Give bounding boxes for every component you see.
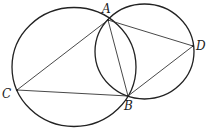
point-B (127, 95, 129, 97)
point-D (192, 45, 194, 47)
geometry-diagram: A B C D (0, 0, 206, 130)
label-B: B (123, 99, 133, 113)
circles-group (12, 4, 194, 127)
segments-group (17, 20, 193, 96)
labels-group: A B C D (2, 2, 206, 113)
segment-CA (17, 20, 108, 90)
label-C: C (2, 87, 11, 101)
point-C (16, 89, 18, 91)
point-A (107, 19, 109, 21)
label-A: A (101, 2, 111, 16)
points-group (16, 19, 194, 97)
segment-CB (17, 90, 128, 96)
segment-AB (108, 20, 128, 96)
segment-AD (108, 20, 193, 46)
label-D: D (195, 39, 206, 53)
right-circle (95, 4, 194, 99)
left-circle (12, 8, 136, 127)
segment-BD (128, 46, 193, 96)
